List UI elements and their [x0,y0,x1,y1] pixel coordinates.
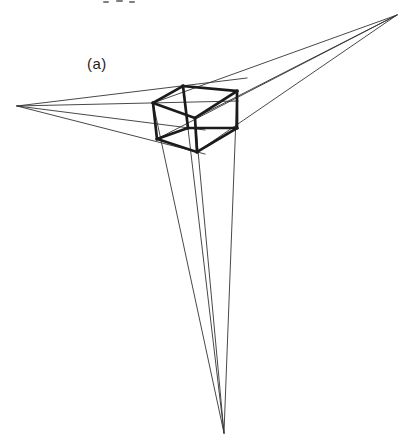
perspective-svg [0,0,415,446]
cube-edge-top_back-top_right [183,86,237,91]
cube-edge-top_front-top_left [153,103,195,118]
construction-ray-from-bottom-vanishing-point [224,91,237,433]
construction-ray-from-bottom-vanishing-point [153,103,224,433]
figure-label: (a) [87,55,107,72]
cube-edge-bottom_left-bottom_back [157,128,188,139]
cube-edge-top_right-top_front [195,91,237,118]
cube-edge-top_front-bottom_front [195,118,197,152]
construction-ray-from-top_right-vanishing-point [153,15,397,103]
three-point-perspective-figure: (a) [0,0,415,446]
construction-ray-from-left-vanishing-point [17,106,205,130]
cube-edge-bottom_right-bottom_front [197,128,237,152]
cube-edge-top_left-bottom_left [153,103,157,139]
cube-edge-top_back-bottom_back [183,86,188,128]
construction-ray-from-top_right-vanishing-point [197,15,397,152]
construction-ray-from-bottom-vanishing-point [195,118,224,433]
construction-ray-from-top_right-vanishing-point [157,15,397,139]
